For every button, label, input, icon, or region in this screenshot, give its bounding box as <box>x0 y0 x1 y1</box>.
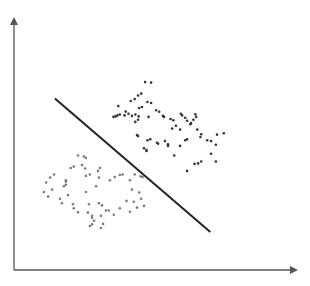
data-point-class-a-58 <box>145 149 148 152</box>
data-point-class-b-21 <box>61 202 64 205</box>
data-point-class-a-16 <box>123 114 126 117</box>
data-point-class-b-37 <box>100 227 103 230</box>
data-point-class-b-18 <box>47 195 50 198</box>
data-point-class-b-46 <box>129 179 132 182</box>
data-point-class-b-11 <box>65 180 68 183</box>
data-point-class-b-4 <box>73 165 76 168</box>
data-point-class-b-24 <box>77 211 80 214</box>
data-point-class-a-8 <box>146 101 149 104</box>
data-point-class-b-32 <box>101 204 104 207</box>
data-point-class-a-0 <box>144 81 147 84</box>
axes <box>14 19 296 270</box>
data-point-class-a-59 <box>179 145 182 148</box>
data-point-class-a-28 <box>169 118 172 121</box>
data-point-class-a-23 <box>134 121 137 124</box>
data-point-class-a-53 <box>164 140 167 143</box>
data-point-class-a-3 <box>137 94 140 97</box>
data-point-class-a-52 <box>157 143 160 146</box>
series-class-a <box>112 81 225 172</box>
data-point-class-b-30 <box>93 220 96 223</box>
data-point-class-a-5 <box>133 98 136 101</box>
data-point-class-b-23 <box>73 207 76 210</box>
data-point-class-a-66 <box>210 153 213 156</box>
data-point-class-b-25 <box>85 191 88 194</box>
data-point-class-a-67 <box>200 160 203 163</box>
data-point-class-b-33 <box>100 215 103 218</box>
scatter-plot <box>0 0 310 286</box>
data-point-class-a-18 <box>131 115 134 118</box>
data-point-class-b-58 <box>113 214 116 217</box>
data-point-class-a-11 <box>141 106 144 109</box>
data-point-class-a-27 <box>163 116 166 119</box>
data-point-class-b-50 <box>131 188 134 191</box>
data-point-class-a-47 <box>146 139 149 142</box>
data-point-class-b-0 <box>77 154 80 157</box>
data-point-class-b-40 <box>97 170 100 173</box>
data-point-class-a-1 <box>150 81 153 84</box>
data-point-class-b-34 <box>105 209 108 212</box>
data-point-class-b-22 <box>72 203 75 206</box>
data-point-class-b-14 <box>89 173 92 176</box>
data-point-class-a-35 <box>189 123 192 126</box>
data-point-class-a-42 <box>196 128 199 131</box>
data-point-class-b-52 <box>133 201 136 204</box>
data-point-class-a-15 <box>119 113 122 116</box>
data-point-class-b-5 <box>81 164 84 167</box>
data-point-class-b-29 <box>91 216 94 219</box>
data-point-class-b-19 <box>59 197 62 200</box>
data-point-class-b-53 <box>136 206 139 209</box>
data-point-class-b-55 <box>143 205 146 208</box>
data-point-class-b-26 <box>88 203 91 206</box>
data-points <box>43 81 226 230</box>
data-point-class-b-61 <box>91 223 94 226</box>
data-point-class-a-32 <box>184 117 187 120</box>
data-point-class-a-33 <box>186 119 189 122</box>
data-point-class-a-19 <box>134 113 137 116</box>
data-point-class-a-20 <box>137 115 140 118</box>
data-point-class-a-61 <box>206 139 209 142</box>
data-point-class-b-6 <box>84 167 87 170</box>
data-point-class-a-50 <box>136 134 139 137</box>
data-point-class-b-47 <box>133 173 136 176</box>
data-point-class-a-24 <box>155 109 158 112</box>
data-point-class-b-31 <box>98 202 101 205</box>
data-point-class-b-27 <box>87 211 90 214</box>
data-point-class-a-37 <box>195 116 198 119</box>
data-point-class-a-36 <box>192 119 195 122</box>
data-point-class-a-56 <box>143 147 146 150</box>
data-point-class-b-13 <box>85 175 88 178</box>
data-point-class-a-2 <box>140 92 143 95</box>
data-point-class-a-68 <box>197 162 200 165</box>
data-point-class-b-38 <box>95 185 98 188</box>
data-point-class-b-12 <box>65 184 68 187</box>
data-point-class-a-7 <box>117 105 120 108</box>
data-point-class-b-42 <box>109 179 112 182</box>
data-point-class-a-45 <box>199 136 202 139</box>
series-class-b <box>43 154 146 229</box>
data-point-class-b-7 <box>49 176 52 179</box>
data-point-class-b-17 <box>51 188 54 191</box>
data-point-class-a-39 <box>175 125 178 128</box>
data-point-class-a-21 <box>137 119 140 122</box>
data-point-class-b-16 <box>43 191 46 194</box>
data-point-class-a-10 <box>138 107 141 110</box>
data-point-class-a-9 <box>150 102 153 105</box>
data-point-class-b-56 <box>125 200 128 203</box>
data-point-class-b-60 <box>89 225 92 228</box>
data-point-class-a-48 <box>149 138 152 141</box>
data-point-class-a-63 <box>215 143 218 146</box>
data-point-class-a-55 <box>167 143 170 146</box>
data-point-class-a-65 <box>223 132 226 135</box>
data-point-class-a-70 <box>186 170 189 173</box>
data-point-class-a-44 <box>186 138 189 141</box>
data-point-class-b-20 <box>67 194 70 197</box>
data-point-class-b-51 <box>138 191 141 194</box>
data-point-class-a-62 <box>210 140 213 143</box>
data-point-class-a-6 <box>124 110 127 113</box>
data-point-class-b-57 <box>129 210 132 213</box>
data-point-class-a-25 <box>158 111 161 114</box>
data-point-class-b-43 <box>113 176 116 179</box>
data-point-class-a-71 <box>215 160 218 163</box>
data-point-class-a-60 <box>173 154 176 157</box>
data-point-class-a-22 <box>147 116 150 119</box>
